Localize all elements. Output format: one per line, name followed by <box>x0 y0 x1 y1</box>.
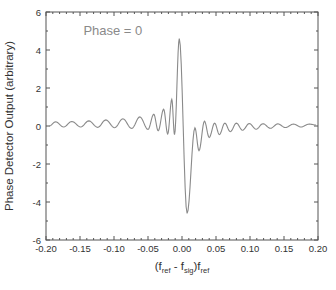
x-label-subscript: sig <box>184 266 194 275</box>
x-label-subscript: ref <box>201 266 211 275</box>
y-tick-label: 4 <box>36 45 41 56</box>
x-tick-label: -0.10 <box>103 243 125 254</box>
x-tick-label: -0.05 <box>137 243 159 254</box>
y-axis-label: Phase Detector Output (arbitrary) <box>3 41 15 211</box>
x-tick-label: 0.05 <box>207 243 226 254</box>
x-label-text: - f <box>170 260 184 272</box>
x-tick-label: 0.10 <box>241 243 260 254</box>
y-tick-label: -2 <box>33 159 41 170</box>
x-tick-label: 0.15 <box>275 243 294 254</box>
annotation-phase-label: Phase = 0 <box>83 23 142 38</box>
x-tick-label: 0.00 <box>173 243 192 254</box>
y-tick-label: -4 <box>33 197 41 208</box>
plot-frame <box>46 12 318 240</box>
y-tick-label: 2 <box>36 83 41 94</box>
y-tick-label: -6 <box>33 235 41 246</box>
y-tick-label: 6 <box>36 7 41 18</box>
x-axis-label: (fref - fsig)fref <box>155 260 211 275</box>
phase-detector-chart: -0.20-0.15-0.10-0.050.000.050.100.150.20… <box>0 0 336 290</box>
x-tick-label: -0.15 <box>69 243 91 254</box>
series-line-phase-0 <box>49 39 316 214</box>
y-tick-label: 0 <box>36 121 41 132</box>
x-tick-label: 0.20 <box>309 243 328 254</box>
